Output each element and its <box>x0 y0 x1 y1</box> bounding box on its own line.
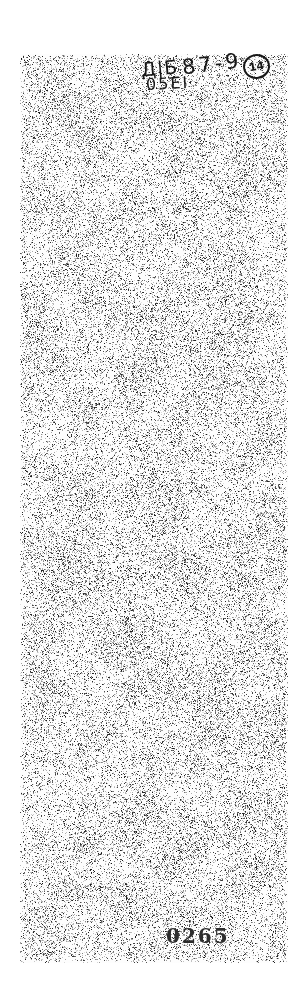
page-number-stamp: 0265 <box>166 924 230 948</box>
scan-noise-texture <box>20 54 288 963</box>
scanned-document-page: Д|Б̲ 87-9 14 05ЕІ 0265 <box>0 0 304 1003</box>
handwriting-segment-3: 05ЕІ <box>146 73 190 94</box>
